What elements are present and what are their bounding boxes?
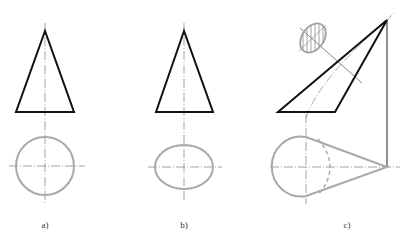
panel-c bbox=[270, 13, 400, 204]
technical-drawing bbox=[0, 0, 408, 243]
panel-b bbox=[148, 23, 222, 202]
section-line-c bbox=[300, 28, 362, 83]
panel-label-a: a) bbox=[42, 220, 49, 230]
panel-label-b: b) bbox=[180, 220, 188, 230]
panel-a bbox=[9, 23, 85, 204]
panel-label-c: c) bbox=[344, 220, 351, 230]
oblique-cone-front-view-c bbox=[278, 20, 387, 112]
cone-front-view-b bbox=[156, 31, 213, 112]
